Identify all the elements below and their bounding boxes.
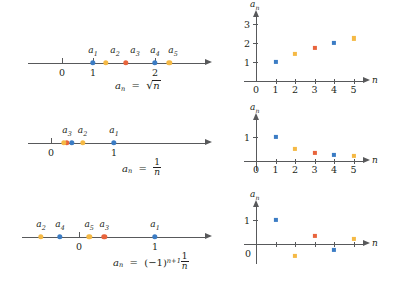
number-line-point-label-a1: a1 (88, 46, 97, 57)
plot-y-axis (256, 16, 257, 81)
plot-x-tick-3 (315, 159, 316, 164)
sequence-row-alternating: 0 1 a1 a2 a3 a4 a5 an = (−1)n+11n an (0, 190, 400, 285)
plot-x-ticklabel-5: 5 (350, 85, 356, 95)
plot-y-axis-arrow (253, 10, 259, 17)
plot-x-ticklabel-0: 0 (253, 165, 259, 175)
plot-x-ticklabel-3: 3 (311, 85, 317, 95)
tick-0 (62, 58, 63, 63)
plot-x-axis (244, 81, 364, 82)
formula-one-over-n: an = 1n (122, 158, 161, 178)
plot-x-tick-4 (334, 242, 335, 247)
sequence-row-sqrt-n: 0 1 2 a1 a2 a3 a4 a5 an = √n (0, 0, 400, 95)
plot-x-axis-arrow (363, 240, 370, 246)
number-line-point-label-a2: a2 (110, 46, 119, 57)
plot-panel-2: an n 1 0 1 2 3 4 5 (236, 113, 396, 187)
plot-y-ticklabel-2: 2 (244, 39, 250, 49)
plot-y-axis-arrow (253, 113, 259, 120)
number-line-arrow-right (205, 233, 212, 239)
plot-y-ticklabel-1: 1 (244, 216, 250, 226)
plot-y-axis-arrow (253, 200, 259, 207)
plot-x-tick-5 (354, 159, 355, 164)
plot-x-tick-4 (334, 159, 335, 164)
plot-x-tick-1 (276, 242, 277, 247)
number-line-point-a4 (152, 60, 157, 65)
tick-label-2: 2 (152, 68, 158, 78)
tick-0 (51, 138, 52, 143)
number-line-point-a2 (103, 60, 108, 65)
plot-y-tick-1 (253, 220, 258, 221)
data-point-n2 (293, 147, 297, 151)
data-point-n3 (312, 234, 316, 238)
data-point-n3 (312, 46, 316, 50)
data-point-n1 (273, 135, 277, 139)
data-point-n1 (273, 218, 277, 222)
number-line-point-label-a1: a1 (150, 220, 159, 231)
plot-x-ticklabel-3: 3 (311, 165, 317, 175)
formula-alternating: an = (−1)n+11n (113, 252, 189, 272)
tick-label-0: 0 (59, 68, 65, 78)
number-line-point-label-a2: a2 (36, 220, 45, 231)
plot-y-axis-label: an (250, 0, 259, 11)
plot-y-tick-1 (253, 62, 258, 63)
plot-x-ticklabel-1: 1 (272, 165, 278, 175)
plot-x-tick-1 (276, 79, 277, 84)
tick-label-1: 1 (152, 242, 158, 252)
number-line-point-a1 (111, 140, 116, 145)
number-line-point-label-a5: a5 (84, 220, 93, 231)
data-point-n4 (332, 153, 336, 157)
plot-x-tick-4 (334, 79, 335, 84)
tick-label-1: 1 (90, 68, 96, 78)
data-point-n2 (293, 52, 297, 56)
data-point-n5 (351, 154, 355, 158)
number-line-point-a5 (167, 60, 172, 65)
plot-x-tick-5 (354, 79, 355, 84)
plot-x-axis (244, 161, 364, 162)
number-line-point-label-a1: a1 (109, 126, 118, 137)
data-point-n5 (351, 36, 355, 40)
number-line-point-a2 (38, 234, 43, 239)
plot-x-ticklabel-5: 5 (350, 165, 356, 175)
number-line-point-a5 (86, 234, 91, 239)
plot-x-ticklabel-0: 0 (253, 85, 259, 95)
number-line-point-label-a4: a4 (150, 46, 159, 57)
number-line-point-a2 (80, 140, 85, 145)
tick-label-0: 0 (76, 242, 82, 252)
plot-y-ticklabel-1: 1 (244, 58, 250, 68)
plot-panel-1: an n 1 2 3 0 1 2 3 4 5 (236, 8, 396, 92)
data-point-n4 (332, 41, 336, 45)
data-point-n3 (312, 151, 316, 155)
number-line-arrow-right (205, 59, 212, 65)
plot-x-tick-3 (315, 242, 316, 247)
plot-y-axis (256, 206, 257, 264)
number-line-panel-1: 0 1 2 a1 a2 a3 a4 a5 an = √n (0, 0, 230, 95)
plot-panel-3: an n 1 0 (236, 198, 396, 278)
number-line-point-label-a5: a5 (168, 46, 177, 57)
number-line-point-a3 (102, 234, 107, 239)
number-line-point-a3 (123, 60, 128, 65)
plot-x-tick-5 (354, 242, 355, 247)
number-line-arrow-right (205, 139, 212, 145)
plot-x-tick-2 (295, 79, 296, 84)
plot-x-ticklabel-2: 2 (292, 85, 298, 95)
number-line-point-label-a3: a3 (100, 220, 109, 231)
plot-x-axis-label: n (372, 156, 378, 165)
plot-x-ticklabel-4: 4 (331, 165, 337, 175)
plot-y-axis-label: an (250, 103, 259, 114)
plot-y-tick-1 (253, 137, 258, 138)
plot-x-tick-1 (276, 159, 277, 164)
number-line-point-label-a3: a3 (62, 126, 71, 137)
tick-label-0: 0 (48, 148, 54, 158)
formula-sqrt-n: an = √n (115, 80, 161, 92)
number-line-point-label-a4: a4 (55, 220, 64, 231)
plot-x-axis-arrow (363, 157, 370, 163)
plot-x-ticklabel-2: 2 (292, 165, 298, 175)
number-line-panel-2: 0 1 a1 a2 a3 an = 1n (0, 95, 230, 190)
plot-x-axis (244, 244, 364, 245)
number-line-axis (22, 237, 206, 238)
plot-y-tick-2 (253, 43, 258, 44)
sequences-figure: 0 1 2 a1 a2 a3 a4 a5 an = √n (0, 0, 400, 286)
plot-x-axis-arrow (363, 77, 370, 83)
data-point-n2 (293, 254, 297, 258)
plot-x-axis-label: n (372, 76, 378, 85)
data-point-n5 (351, 237, 355, 241)
